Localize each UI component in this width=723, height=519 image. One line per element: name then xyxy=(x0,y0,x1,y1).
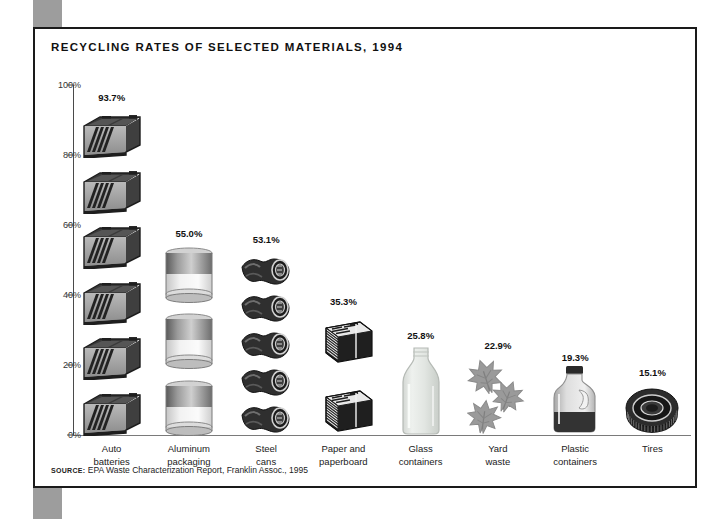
chart-bar[interactable]: 19.3% xyxy=(537,368,613,436)
tire-icon xyxy=(624,384,680,436)
x-axis-category-label: Tires xyxy=(607,443,697,456)
newspaper-icon xyxy=(310,381,376,436)
source-text: EPA Waste Characterization Report, Frank… xyxy=(85,465,308,475)
steel-can-icon xyxy=(240,255,292,288)
aluminum-can-icon xyxy=(163,247,215,303)
chart-bar[interactable]: 22.9% xyxy=(460,356,536,436)
category-label-line1: Tires xyxy=(607,443,697,456)
car-battery-icon xyxy=(80,392,144,436)
steel-can-icon xyxy=(240,366,292,399)
car-battery-icon xyxy=(80,281,144,325)
newspaper-icon xyxy=(310,381,376,436)
steel-can-icon xyxy=(240,292,292,325)
chart-bar[interactable]: 55.0% xyxy=(151,244,227,437)
tire-icon xyxy=(624,384,680,436)
car-battery-icon xyxy=(80,114,144,158)
figure-frame: RECYCLING RATES OF SELECTED MATERIALS, 1… xyxy=(33,27,697,488)
car-battery-icon xyxy=(80,225,144,269)
glass-bottle-icon xyxy=(396,344,446,436)
aluminum-can-icon xyxy=(163,313,215,369)
bar-value-label: 19.3% xyxy=(537,352,613,363)
steel-can-icon xyxy=(240,366,292,399)
chart-bar[interactable]: 25.8% xyxy=(383,346,459,436)
bar-value-label: 55.0% xyxy=(151,228,227,239)
car-battery-icon xyxy=(80,336,144,380)
aluminum-can-icon xyxy=(163,313,215,369)
page-title: RECYCLING RATES OF SELECTED MATERIALS, 1… xyxy=(51,41,403,53)
car-battery-icon xyxy=(80,170,144,214)
chart-bar[interactable]: 35.3% xyxy=(305,312,381,436)
bar-value-label: 15.1% xyxy=(614,367,690,378)
steel-can-icon xyxy=(240,329,292,362)
aluminum-can-icon xyxy=(163,247,215,303)
chart-plot-area: 93.7%55.0%53.1%35.3%25.8%22.9%19.3%15.1% xyxy=(73,84,685,436)
car-battery-icon xyxy=(80,170,144,214)
plastic-jug-icon xyxy=(548,364,602,436)
glass-bottle-icon xyxy=(396,344,446,436)
source-label: SOURCE: xyxy=(51,467,85,474)
newspaper-icon xyxy=(310,312,376,367)
bar-pictogram-stack xyxy=(228,250,304,436)
bar-pictogram-stack xyxy=(460,356,536,436)
bar-value-label: 53.1% xyxy=(228,234,304,245)
plastic-jug-icon xyxy=(548,364,602,436)
aluminum-can-icon xyxy=(163,380,215,436)
car-battery-icon xyxy=(80,336,144,380)
car-battery-icon xyxy=(80,114,144,158)
bar-value-label: 22.9% xyxy=(460,340,536,351)
chart-bar[interactable]: 15.1% xyxy=(614,383,690,436)
bar-pictogram-stack xyxy=(74,108,150,436)
steel-can-icon xyxy=(240,329,292,362)
leaves-icon xyxy=(467,358,529,436)
steel-can-icon xyxy=(240,292,292,325)
bar-pictogram-stack xyxy=(383,346,459,436)
bar-pictogram-stack xyxy=(614,383,690,436)
bar-value-label: 25.8% xyxy=(383,330,459,341)
category-label-line2: containers xyxy=(530,456,620,469)
newspaper-icon xyxy=(310,312,376,367)
chart-bar[interactable]: 93.7% xyxy=(74,108,150,436)
source-note: SOURCE: EPA Waste Characterization Repor… xyxy=(51,465,308,475)
car-battery-icon xyxy=(80,225,144,269)
steel-can-icon xyxy=(240,403,292,436)
bar-pictogram-stack xyxy=(537,368,613,436)
car-battery-icon xyxy=(80,392,144,436)
bar-value-label: 93.7% xyxy=(74,92,150,103)
bar-pictogram-stack xyxy=(151,244,227,437)
steel-can-icon xyxy=(240,255,292,288)
aluminum-can-icon xyxy=(163,380,215,436)
bar-value-label: 35.3% xyxy=(305,296,381,307)
steel-can-icon xyxy=(240,403,292,436)
chart-bar[interactable]: 53.1% xyxy=(228,250,304,436)
leaves-icon xyxy=(467,358,529,436)
car-battery-icon xyxy=(80,281,144,325)
bar-pictogram-stack xyxy=(305,312,381,436)
